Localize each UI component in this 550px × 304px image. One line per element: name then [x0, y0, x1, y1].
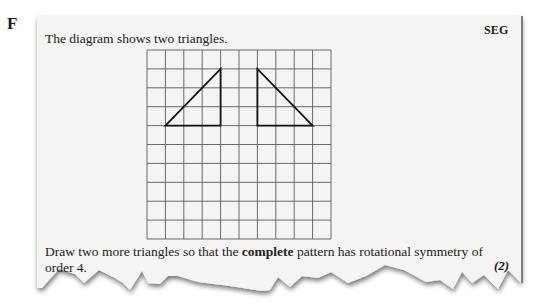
exam-question-page: F SEG The diagram shows two triangles. D… — [0, 0, 550, 304]
marks-label: (2) — [494, 258, 509, 274]
instruction-emphasis: complete — [242, 244, 294, 259]
instruction-part-1: Draw two more triangles so that the — [45, 244, 242, 259]
question-instruction: Draw two more triangles so that the comp… — [45, 244, 485, 276]
left-triangle — [165, 69, 220, 126]
grid-lines — [147, 50, 331, 239]
right-triangle — [257, 69, 312, 126]
